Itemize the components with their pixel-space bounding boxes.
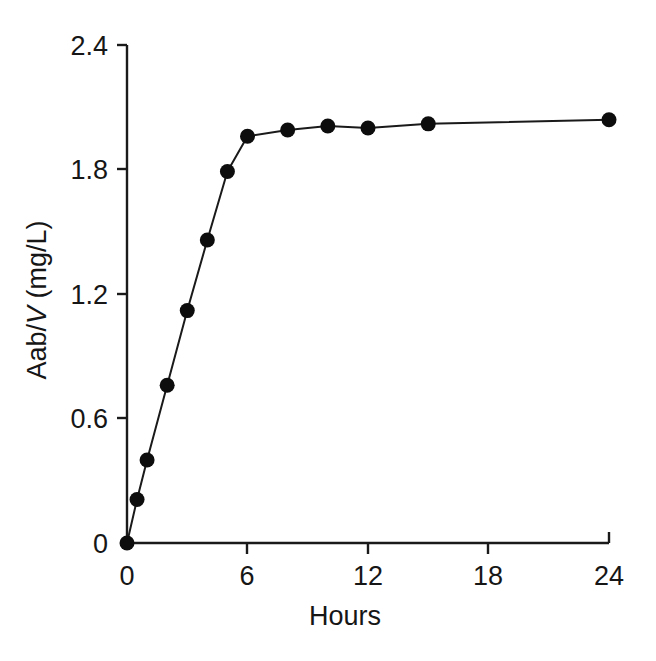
y-tick-label-0_6: 0.6 <box>70 404 108 434</box>
data-point <box>361 121 376 136</box>
chart-canvas: 2.4 1.8 1.2 0.6 0 0 6 12 18 24 Hours Aab… <box>0 0 656 661</box>
series-line-aab-v <box>127 120 609 543</box>
series-markers <box>120 112 617 550</box>
x-tick-label-24: 24 <box>594 561 624 591</box>
data-point <box>240 129 255 144</box>
y-tick-labels: 2.4 1.8 1.2 0.6 0 <box>70 31 108 559</box>
y-tick-label-1_8: 1.8 <box>70 155 108 185</box>
x-axis-title: Hours <box>309 601 381 631</box>
data-point <box>421 116 436 131</box>
axes-group <box>127 45 609 543</box>
data-point <box>120 536 135 551</box>
data-series-layer <box>120 112 617 550</box>
y-tick-marks <box>117 45 127 418</box>
data-point <box>180 303 195 318</box>
y-tick-label-0: 0 <box>93 529 108 559</box>
data-point <box>602 112 617 127</box>
x-tick-label-0: 0 <box>119 561 134 591</box>
x-tick-label-18: 18 <box>473 561 503 591</box>
x-tick-marks <box>247 543 488 554</box>
x-tick-label-12: 12 <box>353 561 383 591</box>
data-point <box>280 123 295 138</box>
y-axis-title: Aab/V (mg/L) <box>22 220 52 379</box>
data-point <box>160 378 175 393</box>
data-point <box>130 492 145 507</box>
data-point <box>140 453 155 468</box>
x-tick-label-6: 6 <box>239 561 254 591</box>
data-point <box>220 164 235 179</box>
data-point <box>320 118 335 133</box>
y-axis-title-lead: Aab/ <box>22 323 52 379</box>
data-point <box>200 233 215 248</box>
chart-figure: 2.4 1.8 1.2 0.6 0 0 6 12 18 24 Hours Aab… <box>0 0 656 661</box>
svg-text:Aab/V (mg/L): Aab/V (mg/L) <box>22 220 52 379</box>
y-axis-title-trail: (mg/L) <box>22 220 52 306</box>
x-tick-labels: 0 6 12 18 24 <box>119 561 624 591</box>
y-tick-label-1_2: 1.2 <box>70 280 108 310</box>
y-tick-label-2_4: 2.4 <box>70 31 108 61</box>
